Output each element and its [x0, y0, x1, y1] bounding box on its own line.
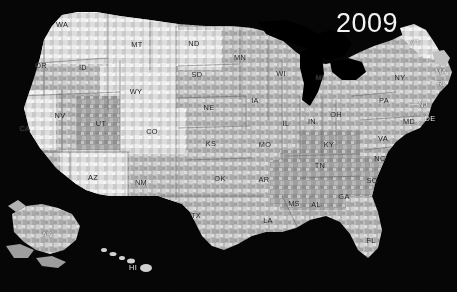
state-label-wi: WI: [276, 70, 286, 77]
state-label-nd: ND: [188, 40, 199, 47]
state-label-pa: PA: [379, 97, 389, 104]
state-label-ak: AK: [42, 231, 52, 238]
state-label-nc: NC: [374, 155, 385, 162]
state-label-mt: MT: [131, 41, 142, 48]
state-label-in: IN: [308, 118, 316, 125]
state-label-ky: KY: [324, 141, 334, 148]
state-label-or: OR: [35, 62, 47, 69]
map-figure: 2009 WAORIDMTWYNVUTCOCAAZNMNDSDNEKSOKTXM…: [0, 0, 457, 292]
state-label-al: AL: [311, 201, 321, 208]
state-label-ok: OK: [214, 175, 225, 182]
year-label: 2009: [336, 10, 398, 37]
state-label-va: VA: [378, 135, 388, 142]
state-label-nj: NJ: [418, 101, 428, 108]
state-label-az: AZ: [88, 174, 98, 181]
state-label-sd: SD: [192, 71, 203, 78]
state-label-mn: MN: [234, 54, 246, 61]
state-label-ri: RI: [437, 80, 445, 87]
state-label-ny: NY: [395, 74, 406, 81]
state-label-mi: MI: [316, 74, 325, 81]
state-label-tx: TX: [191, 212, 201, 219]
state-label-co: CO: [146, 128, 158, 135]
state-label-nv: NV: [55, 112, 66, 119]
state-label-mo: MO: [259, 141, 272, 148]
state-label-oh: OH: [330, 111, 342, 118]
state-label-wy: WY: [130, 88, 143, 95]
state-label-ar: AR: [259, 176, 270, 183]
state-label-ia: IA: [251, 97, 259, 104]
state-label-ut: UT: [96, 120, 106, 127]
state-label-fl: FL: [366, 237, 375, 244]
us-county-choropleth: [0, 0, 457, 292]
state-label-ca: CA: [20, 125, 31, 132]
state-label-ma: MA: [435, 68, 447, 75]
state-label-nm: NM: [135, 179, 147, 186]
state-label-id: ID: [79, 64, 87, 71]
state-label-ms: MS: [288, 200, 300, 207]
state-label-vt: VT: [410, 39, 420, 46]
state-label-tn: TN: [315, 162, 325, 169]
state-label-hi: HI: [129, 264, 137, 271]
state-label-il: IL: [283, 120, 290, 127]
state-label-sc: SC: [367, 177, 378, 184]
state-label-wa: WA: [56, 21, 68, 28]
state-label-la: LA: [263, 217, 273, 224]
state-label-ga: GA: [338, 193, 349, 200]
state-label-ks: KS: [206, 140, 216, 147]
state-label-ne: NE: [204, 104, 215, 111]
